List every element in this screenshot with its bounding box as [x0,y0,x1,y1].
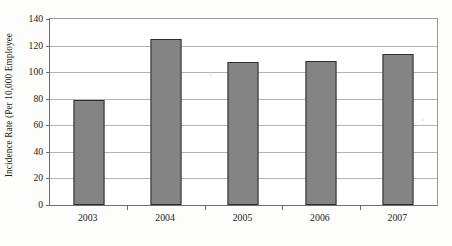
x-axis-tick-label-2003: 2003 [78,212,98,223]
y-axis-tick-labels: 020406080100120140 [18,12,46,208]
bar-slot [282,19,359,205]
y-axis-title-text: Incidence Rate (Per 10,000 Employee [4,33,14,177]
y-axis-tick-label: 40 [33,145,43,156]
bar-slot [50,19,127,205]
y-axis-tick-label: 80 [33,92,43,103]
x-axis-tick-label-2007: 2007 [388,212,408,223]
y-axis-tick-label: 60 [33,119,43,130]
scan-speckle [422,119,424,121]
scan-speckle [210,74,212,76]
bar-slot [205,19,282,205]
y-axis-tick-label: 100 [29,66,43,77]
bar-2006[interactable] [305,61,336,205]
bar-slot [127,19,204,205]
bar-2005[interactable] [228,62,259,205]
y-axis-tick [46,205,50,206]
bar-slot [360,19,437,205]
bar-chart: Incidence Rate (Per 10,000 Employee 0204… [0,0,452,246]
y-axis-tick-label: 0 [38,199,43,210]
y-axis-title: Incidence Rate (Per 10,000 Employee [0,0,18,210]
x-axis-tick-label-2006: 2006 [310,212,330,223]
y-axis-tick-label: 120 [29,39,43,50]
plot-area [49,18,438,206]
x-axis-tick-label-2005: 2005 [233,212,253,223]
bar-2003[interactable] [73,100,104,205]
x-axis-tick-labels: 20032004200520062007 [49,209,438,233]
y-axis-tick-label: 20 [33,172,43,183]
x-axis-tick-label-2004: 2004 [155,212,175,223]
bars-layer [50,19,437,205]
bar-2007[interactable] [383,54,414,205]
bar-2004[interactable] [151,39,182,205]
y-axis-tick-label: 140 [29,13,43,24]
